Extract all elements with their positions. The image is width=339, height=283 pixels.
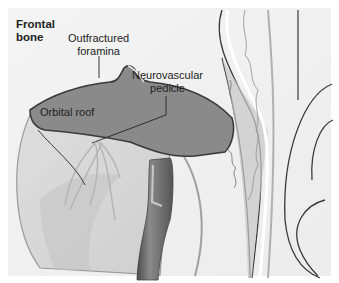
label-orbital-roof: Orbital roof bbox=[40, 106, 94, 119]
label-neurovascular-line1: Neurovascular bbox=[132, 69, 203, 82]
label-outfractured-foramina: Outfractured foramina bbox=[68, 32, 129, 58]
label-neurovascular-pedicle: Neurovascular pedicle bbox=[132, 69, 203, 95]
label-neurovascular-line2: pedicle bbox=[132, 82, 203, 95]
label-outfractured-line1: Outfractured bbox=[68, 32, 129, 45]
label-frontal-bone-line1: Frontal bbox=[16, 18, 55, 31]
label-frontal-bone: Frontal bone bbox=[16, 18, 55, 44]
label-frontal-bone-line2: bone bbox=[16, 31, 55, 44]
label-outfractured-line2: foramina bbox=[68, 45, 129, 58]
